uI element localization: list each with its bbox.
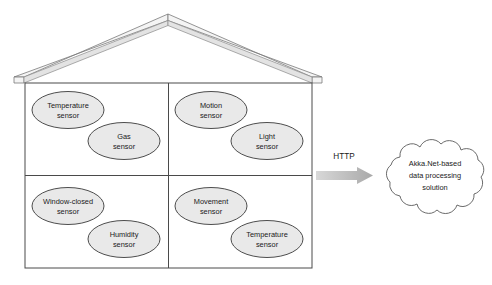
roof-left-eave (14, 77, 24, 83)
sensor-label-line1: Temperature (246, 230, 288, 239)
sensor-gas[interactable]: Gas sensor (88, 123, 160, 160)
sensor-label-line1: Light (259, 132, 275, 141)
roof-right-underside (168, 21, 312, 84)
cloud-label-line3: solution (422, 183, 447, 192)
cloud-label-line2: data processing (409, 171, 461, 180)
sensor-label-line2: sensor (200, 111, 223, 120)
smart-home-group: Temperature sensor Gas sensor Motion sen… (14, 14, 322, 268)
sensor-label-line1: Movement (194, 197, 229, 206)
sensor-motion[interactable]: Motion sensor (175, 92, 247, 129)
sensor-label-line2: sensor (256, 142, 279, 151)
sensor-label-line1: Gas (117, 132, 131, 141)
sensor-movement[interactable]: Movement sensor (175, 188, 247, 225)
arrow-right-icon (316, 167, 373, 184)
sensor-temperature-2[interactable]: Temperature sensor (231, 221, 303, 258)
cloud-node[interactable]: Akka.Net-based data processing solution (386, 140, 483, 214)
sensor-label-line1: Humidity (110, 230, 139, 239)
roof-left-slope (14, 14, 168, 77)
sensor-label-line2: sensor (113, 142, 136, 151)
sensor-label-line2: sensor (256, 240, 279, 249)
diagram-root: Temperature sensor Gas sensor Motion sen… (0, 0, 492, 285)
roof-right-slope (168, 14, 322, 77)
sensor-label-line1: Window-closed (43, 197, 93, 206)
iot-architecture-diagram: Temperature sensor Gas sensor Motion sen… (0, 0, 492, 285)
sensor-label-line2: sensor (113, 240, 136, 249)
cloud-label-line1: Akka.Net-based (409, 159, 462, 168)
sensor-label-line1: Temperature (47, 101, 89, 110)
sensor-label-line1: Motion (200, 101, 222, 110)
sensor-window-closed[interactable]: Window-closed sensor (32, 188, 104, 225)
sensor-label-line2: sensor (200, 207, 223, 216)
sensor-label-line2: sensor (57, 111, 80, 120)
http-label: HTTP (333, 152, 355, 161)
roof-left-underside (24, 21, 168, 84)
roof-right-eave (312, 77, 322, 83)
sensor-humidity[interactable]: Humidity sensor (88, 221, 160, 258)
sensor-light[interactable]: Light sensor (231, 123, 303, 160)
sensor-temperature-1[interactable]: Temperature sensor (32, 92, 104, 129)
sensor-label-line2: sensor (57, 207, 80, 216)
http-connector: HTTP (316, 152, 373, 184)
